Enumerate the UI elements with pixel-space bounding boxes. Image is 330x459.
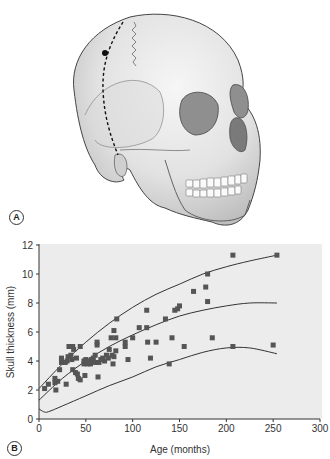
data-point <box>177 303 182 308</box>
data-point <box>71 347 76 352</box>
y-tick-label: 6 <box>27 327 33 338</box>
data-point <box>74 356 79 361</box>
data-point <box>123 344 128 349</box>
data-point <box>93 353 98 358</box>
data-point <box>203 285 208 290</box>
data-point <box>69 357 74 362</box>
plot-background <box>39 244 322 419</box>
skull-thickness-chart: 050100150200250300024681012 Age (months)… <box>0 230 330 459</box>
data-point <box>78 377 83 382</box>
data-point <box>113 348 118 353</box>
x-tick-label: 150 <box>171 423 188 434</box>
data-point <box>68 353 73 358</box>
data-point <box>46 382 51 387</box>
data-point <box>230 253 235 258</box>
data-point <box>53 388 58 393</box>
data-point <box>42 386 47 391</box>
measurement-point <box>102 50 108 56</box>
x-tick-label: 200 <box>218 423 235 434</box>
x-tick-label: 50 <box>80 423 92 434</box>
data-point <box>170 335 175 340</box>
data-point <box>109 335 114 340</box>
y-tick-label: 12 <box>22 240 34 251</box>
data-point <box>59 356 64 361</box>
y-tick-label: 10 <box>22 269 34 280</box>
x-tick-label: 300 <box>312 423 329 434</box>
data-point <box>95 340 100 345</box>
data-point <box>274 253 279 258</box>
data-point <box>75 372 80 377</box>
data-point <box>82 373 87 378</box>
data-point <box>144 325 149 330</box>
data-point <box>88 361 93 366</box>
y-tick-label: 0 <box>27 414 33 425</box>
data-point <box>55 379 60 384</box>
data-point <box>145 340 150 345</box>
data-point <box>230 344 235 349</box>
x-tick-label: 250 <box>265 423 282 434</box>
data-point <box>205 299 210 304</box>
data-point <box>110 361 115 366</box>
data-point <box>107 347 112 352</box>
y-axis-title: Skull thickness (mm) <box>5 286 16 378</box>
data-point <box>125 357 130 362</box>
data-point <box>64 382 69 387</box>
y-tick-label: 8 <box>27 298 33 309</box>
data-point <box>123 340 128 345</box>
x-tick-label: 0 <box>36 423 42 434</box>
y-tick-label: 2 <box>27 385 33 396</box>
panel-label-b: B <box>7 441 22 456</box>
x-tick-label: 100 <box>124 423 141 434</box>
data-point <box>148 356 153 361</box>
data-point <box>114 316 119 321</box>
data-point <box>57 367 62 372</box>
data-point <box>144 308 149 313</box>
y-tick-label: 4 <box>27 356 33 367</box>
data-point <box>154 340 159 345</box>
x-axis-title: Age (months) <box>150 444 210 455</box>
data-point <box>167 361 172 366</box>
data-point <box>205 272 210 277</box>
skull-illustration <box>0 0 330 230</box>
data-point <box>182 344 187 349</box>
data-point <box>96 374 101 379</box>
data-point <box>111 328 116 333</box>
data-point <box>65 359 70 364</box>
data-point <box>163 316 168 321</box>
data-point <box>113 335 118 340</box>
data-point <box>78 344 83 349</box>
data-point <box>111 354 116 359</box>
data-point <box>137 325 142 330</box>
data-point <box>191 289 196 294</box>
data-point <box>210 335 215 340</box>
data-point <box>271 343 276 348</box>
data-point <box>130 335 135 340</box>
panel-label-a: A <box>9 210 24 225</box>
